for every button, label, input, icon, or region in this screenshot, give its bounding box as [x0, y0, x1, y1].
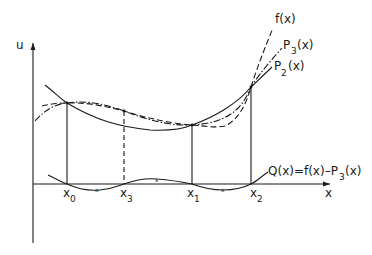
node-label-x3: x 3	[120, 186, 133, 204]
svg-text:3: 3	[291, 46, 297, 56]
node-point-x2	[250, 86, 253, 89]
node-label-x0: x 0	[63, 186, 76, 204]
node-point-x1	[191, 124, 194, 127]
interpolation-diagram: u x x x x f(x) P 3 (x) P 2 (x) Q(x)=f(x)…	[0, 0, 372, 255]
u-axis-label: u	[16, 38, 24, 52]
q-extremum-mark: x	[221, 186, 225, 193]
label-p2: P 2 (x)	[274, 59, 304, 78]
svg-text:(x): (x)	[288, 59, 304, 73]
q-extremum-mark: x	[155, 176, 159, 183]
svg-text:P: P	[283, 38, 290, 52]
svg-text:3: 3	[339, 172, 345, 182]
svg-text:0: 0	[70, 194, 76, 204]
q-extremum-mark: x	[95, 186, 99, 193]
label-f: f(x)	[275, 12, 296, 26]
x-axis-label: x	[325, 186, 332, 200]
curve-f	[42, 28, 273, 127]
curve-p3	[35, 48, 282, 125]
label-p3: P 3 (x)	[283, 38, 313, 56]
svg-text:2: 2	[257, 194, 263, 204]
curve-p2	[45, 67, 272, 130]
label-q: Q(x)=f(x)–P 3 (x)	[268, 164, 361, 182]
svg-text:2: 2	[281, 68, 287, 78]
svg-text:1: 1	[194, 194, 200, 204]
svg-text:Q(x)=f(x)–P: Q(x)=f(x)–P	[268, 164, 338, 178]
node-label-x1: x 1	[187, 186, 200, 204]
node-label-x2: x 2	[250, 186, 263, 204]
svg-text:3: 3	[127, 194, 133, 204]
svg-text:(x): (x)	[297, 38, 313, 52]
node-point-x0	[66, 102, 69, 105]
node-point-x3	[123, 110, 126, 113]
svg-text:(x): (x)	[345, 164, 361, 178]
